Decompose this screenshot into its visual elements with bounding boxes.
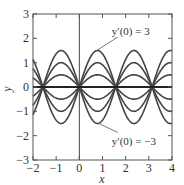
y-tick-label: −1 [16, 104, 29, 118]
annotation-label: y′(0) = −3 [112, 135, 157, 148]
x-axis-label: x [98, 172, 105, 185]
x-tick-label: −1 [50, 161, 63, 175]
y-axis-label: y [0, 86, 14, 93]
annotation-leader [97, 37, 118, 50]
x-tick-label: 3 [146, 161, 152, 175]
x-tick-label: 4 [169, 161, 175, 175]
annotation-leader [99, 124, 118, 133]
y-tick-label: −2 [16, 129, 29, 143]
y-tick-label: 0 [23, 80, 29, 94]
y-tick-label: 2 [23, 31, 29, 45]
annotation-label: y′(0) = 3 [112, 25, 150, 38]
x-tick-label: 0 [76, 161, 82, 175]
x-tick-label: 2 [123, 161, 129, 175]
y-tick-label: −3 [16, 153, 29, 167]
y-tick-label: 1 [23, 56, 29, 70]
chart: −2−101234−3−2−10123 y′(0) = 3y′(0) = −3 … [0, 0, 184, 185]
y-tick-label: 3 [23, 7, 29, 21]
